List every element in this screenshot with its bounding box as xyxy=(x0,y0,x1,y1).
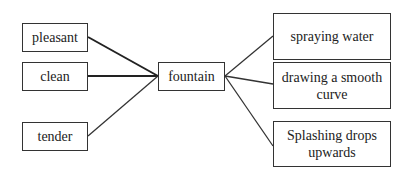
node-pleasant: pleasant xyxy=(22,23,88,52)
edge-fountain-drawing-smooth-curve xyxy=(225,76,273,84)
edge-pleasant-fountain xyxy=(88,37,158,76)
node-splashing-drops: Splashing drops upwards xyxy=(273,121,391,167)
node-label: Splashing drops upwards xyxy=(284,127,380,161)
edge-fountain-splashing-drops xyxy=(225,76,273,146)
node-drawing-smooth-curve: drawing a smooth curve xyxy=(273,62,391,109)
node-label: tender xyxy=(38,128,73,145)
edge-tender-fountain xyxy=(88,76,158,136)
node-label: spraying water xyxy=(291,28,374,45)
node-label: drawing a smooth curve xyxy=(278,69,386,103)
node-clean: clean xyxy=(22,62,88,91)
node-label: pleasant xyxy=(32,29,78,46)
node-label: clean xyxy=(40,68,70,85)
node-tender: tender xyxy=(22,122,88,151)
edge-fountain-spraying-water xyxy=(225,36,273,76)
node-label: fountain xyxy=(168,68,215,85)
node-fountain: fountain xyxy=(158,62,225,91)
node-spraying-water: spraying water xyxy=(273,13,391,60)
